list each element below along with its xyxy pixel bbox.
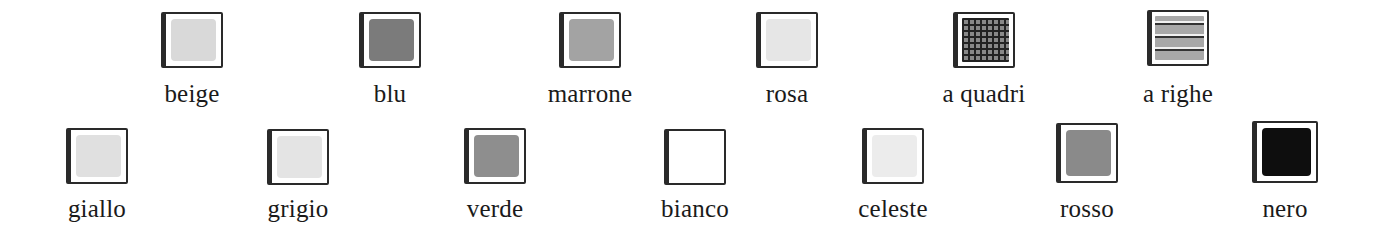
solid-fill [569, 19, 614, 61]
solid-fill [76, 135, 121, 177]
color-swatch [953, 12, 1015, 68]
solid-fill [277, 136, 322, 178]
color-label: a quadri [914, 80, 1054, 108]
color-swatch [756, 12, 818, 68]
color-label: verde [425, 195, 565, 223]
color-swatch [161, 12, 223, 68]
color-label: blu [320, 80, 460, 108]
color-label: grigio [228, 195, 368, 223]
color-swatch [1147, 10, 1209, 66]
color-label: a righe [1108, 80, 1248, 108]
color-swatch [559, 12, 621, 68]
solid-fill [766, 19, 811, 61]
color-swatch [359, 12, 421, 68]
color-label: marrone [520, 80, 660, 108]
color-swatch [66, 128, 128, 184]
color-label: beige [122, 80, 262, 108]
solid-fill [369, 19, 414, 61]
stripes-fill [1155, 16, 1204, 60]
solid-fill [872, 135, 917, 177]
color-swatch [862, 128, 924, 184]
color-label: rosa [717, 80, 857, 108]
color-label: bianco [625, 195, 765, 223]
color-swatch [1252, 121, 1318, 183]
color-swatch [464, 128, 526, 184]
solid-fill [474, 135, 519, 177]
solid-fill [1066, 130, 1111, 176]
color-swatch [664, 129, 726, 185]
color-label: nero [1215, 195, 1355, 223]
solid-fill [171, 19, 216, 61]
solid-fill [674, 136, 719, 178]
color-label: celeste [823, 195, 963, 223]
color-swatch [267, 129, 329, 185]
color-label: giallo [27, 195, 167, 223]
solid-fill [1262, 128, 1311, 176]
color-label: rosso [1017, 195, 1157, 223]
color-swatch [1056, 123, 1118, 183]
checks-fill [962, 18, 1009, 62]
